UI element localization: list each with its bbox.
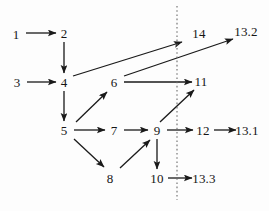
node-label-10: 10 — [150, 172, 163, 185]
edges-group — [26, 33, 236, 178]
flow-diagram: 1234567891011121413.113.213.3 — [0, 0, 269, 211]
edge-4-to-14 — [73, 42, 182, 76]
node-label-6: 6 — [111, 76, 118, 89]
node-label-8: 8 — [107, 172, 114, 185]
node-label-5: 5 — [61, 124, 68, 137]
node-label-13.2: 13.2 — [234, 25, 258, 38]
node-label-4: 4 — [61, 76, 68, 89]
edge-6-to-13.2 — [124, 39, 233, 76]
node-label-11: 11 — [195, 75, 208, 88]
node-label-9: 9 — [154, 124, 161, 137]
node-label-13.1: 13.1 — [235, 124, 259, 137]
node-label-3: 3 — [14, 76, 21, 89]
edge-5-to-8 — [74, 139, 104, 167]
edge-8-to-9 — [120, 140, 150, 168]
node-label-7: 7 — [111, 124, 118, 137]
node-label-13.3: 13.3 — [192, 172, 216, 185]
node-label-12: 12 — [196, 124, 209, 137]
edge-5-to-6 — [76, 92, 107, 122]
node-label-14: 14 — [192, 27, 205, 40]
graph-edges-layer — [0, 0, 269, 211]
node-label-1: 1 — [13, 28, 20, 41]
node-label-2: 2 — [61, 27, 68, 40]
